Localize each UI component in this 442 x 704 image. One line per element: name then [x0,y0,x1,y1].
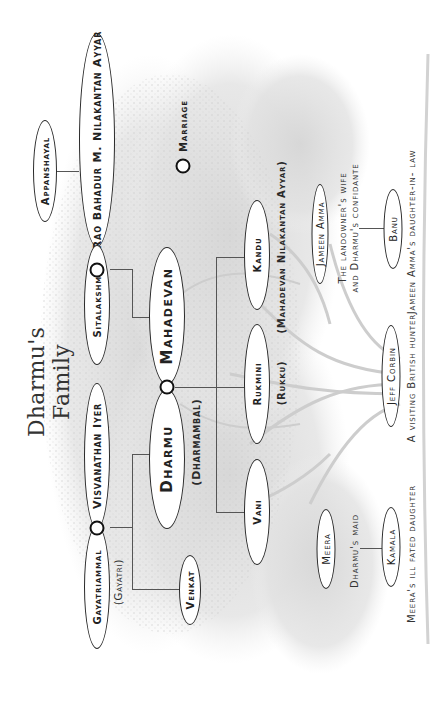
person-name: Visvanathan Iyer [91,403,104,509]
person-name: Jeff Corbin [386,347,397,405]
person-name: Jameen Amma [315,202,326,267]
person-appanshayal: Appanshayal [33,120,57,222]
person-name: Appanshayal [40,137,51,205]
person-name: Gayatriammal [92,549,103,624]
caption-banu: Jameen Amma's daughter-in- law [406,150,417,315]
connector-dharmu-mahadevan-marriage [175,387,216,388]
marriage-ring-icon [160,380,175,395]
person-name: Meera [321,533,332,564]
alias-rukku: (Rukku) [276,361,287,406]
person-name: Banu [388,216,399,242]
person-dharmu: Dharmu [149,389,185,529]
person-banu: Banu [384,189,403,269]
person-name: Rukmini [252,362,263,405]
connector-gayatri-visvanathan-marriage [110,527,132,528]
connector [132,589,180,590]
person-venkat: Venkat [179,555,201,625]
marriage-ring-icon [90,263,105,278]
person-name: Vani [252,499,263,524]
person-name: Dharmu [158,425,176,493]
connector [216,387,244,388]
connector [132,455,133,590]
legend-marriage-ring-icon [176,159,191,174]
connector [216,257,217,513]
person-vani: Vani [244,459,270,565]
person-name: Rao Bahadur M. Nilakantan Ayyar [91,31,104,250]
person-rao-bahadur: Rao Bahadur M. Nilakantan Ayyar [79,33,115,247]
marriage-ring-icon [90,521,105,536]
person-kandu: Kandu [244,200,270,310]
alias-gayatri: (Gayatri) [113,559,124,605]
connector [216,257,244,258]
person-jameen-amma: Jameen Amma [312,184,329,284]
connector [132,269,133,318]
connector-meera-kamala [360,548,382,549]
connector [132,317,150,318]
alias-mahadevan-nilakantan-ayyar: (Mahadevan Nilakantan Ayyar) [276,160,287,333]
legend-marriage-label: Marriage [178,100,189,152]
person-name: Venkat [185,571,196,610]
person-name: Sitalakshmi [92,272,103,337]
caption-meera: Dharmu's maid [349,514,360,588]
caption-jameen-amma-line1: The landowner's wife [337,172,348,283]
person-kamala: Kamala [382,507,401,587]
caption-jeff-corbin: A visiting British hunter [406,314,417,442]
person-rukmini: Rukmini [244,324,270,444]
person-name: Kamala [386,529,397,565]
person-gayatriammal: Gayatriammal [84,525,110,649]
alias-dharmambal: (Dharmambal) [190,398,203,485]
person-mahadevan: Mahadevan [149,247,185,385]
caption-kamala: Meera's ill fated daughter [406,485,417,623]
page: Dharmu's Family Appanshayal Rao Bahadur … [0,0,442,704]
connector [132,454,150,455]
person-jeff-corbin: Jeff Corbin [382,325,401,427]
family-tree-diagram: Dharmu's Family Appanshayal Rao Bahadur … [0,0,442,704]
diagram-title: Dharmu's Family [24,292,74,472]
connector-rao-sitalakshmi-marriage [110,269,132,270]
connector [216,512,244,513]
connector-appanshayal-rao [57,171,79,172]
ground-line [424,54,429,644]
person-meera: Meera [317,509,336,589]
person-name: Kandu [252,237,263,272]
caption-jameen-amma-line2: and Dharmu's confidante [349,163,360,292]
connector-jameen-banu [359,228,384,229]
person-name: Mahadevan [158,268,176,365]
person-visvanathan-iyer: Visvanathan Iyer [84,383,110,529]
